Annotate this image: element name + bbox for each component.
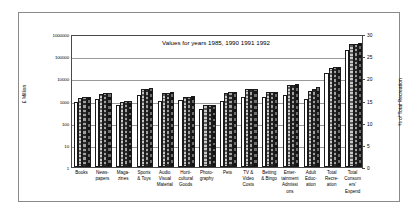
y-axis-left-tick-label: 10000 — [57, 77, 69, 82]
bar-group — [343, 36, 363, 167]
bar — [358, 43, 362, 167]
y-axis-left-tick-label: 1000 — [60, 99, 69, 104]
bar — [337, 67, 341, 167]
y-axis-right: 051015202530 — [365, 35, 381, 168]
bar-group — [176, 36, 197, 167]
bar-group — [301, 36, 322, 167]
chart-title: Values for years 1985, 1990 1991 1992 — [91, 39, 341, 46]
bar — [316, 87, 320, 167]
bar — [107, 93, 111, 167]
y-axis-right-title: % of Total Recreation — [397, 78, 403, 125]
bar — [87, 97, 91, 167]
y-axis-right-tick-label: 0 — [367, 166, 370, 171]
bar-group — [260, 36, 281, 167]
bar-group — [93, 36, 114, 167]
x-axis-tick-label: Total Consum ers' Expend — [340, 170, 366, 195]
y-axis-left-tick-label: 100 — [62, 121, 69, 126]
bar — [128, 101, 132, 168]
y-axis-right-tick — [362, 168, 365, 169]
bar-group — [322, 36, 343, 167]
bar-group — [197, 36, 218, 167]
bar-group — [114, 36, 135, 167]
bar-group — [281, 36, 302, 167]
bar-group — [239, 36, 260, 167]
y-axis-left-tick-label: 1000000 — [53, 33, 69, 38]
bar-group — [135, 36, 156, 167]
bar — [149, 88, 153, 167]
bar — [170, 92, 174, 167]
y-axis-left-tick-label: 100000 — [55, 55, 69, 60]
bar — [295, 84, 299, 167]
bar — [212, 105, 216, 167]
bar — [274, 92, 278, 167]
y-axis-right-tick-label: 5 — [367, 143, 370, 148]
chart-outer-frame: £ Million % of Total Recreation 11010010… — [18, 12, 400, 202]
y-axis-right-tick-label: 25 — [367, 55, 372, 60]
bar-group — [155, 36, 176, 167]
y-axis-right-tick-label: 20 — [367, 77, 372, 82]
y-axis-right-tick-label: 15 — [367, 99, 372, 104]
plot-area — [71, 35, 363, 168]
chart-screenshot: £ Million % of Total Recreation 11010010… — [0, 0, 420, 216]
y-axis-left-title: £ Million — [21, 85, 27, 103]
y-axis-right-tick-label: 10 — [367, 121, 372, 126]
bar-group — [72, 36, 93, 167]
bar — [253, 89, 257, 167]
bar-group — [218, 36, 239, 167]
y-axis-right-tick-label: 30 — [367, 33, 372, 38]
y-axis-left: 1101001000100001000001000000 — [33, 35, 69, 168]
y-axis-left-tick-label: 10 — [64, 143, 69, 148]
x-axis-labels: BooksNews- papersMaga- zinesSports & Toy… — [71, 170, 363, 216]
bar — [233, 92, 237, 167]
bar — [191, 96, 195, 167]
